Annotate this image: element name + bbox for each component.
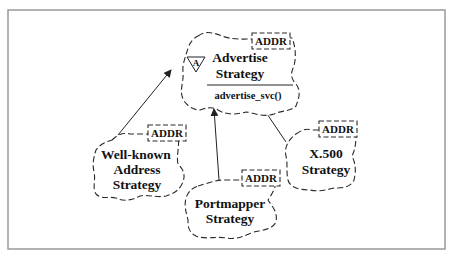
diagram-canvas: ADDR A Advertise Strategy advertise_svc(…: [0, 0, 452, 258]
svg-text:A: A: [193, 58, 200, 68]
class-advertise-strategy: ADDR A Advertise Strategy advertise_svc(…: [181, 33, 299, 116]
template-param-label: ADDR: [151, 127, 184, 139]
inheritance-arrow-portmapper: [214, 109, 219, 180]
svg-text:Well-known: Well-known: [101, 147, 171, 162]
template-param-label: ADDR: [245, 172, 278, 184]
svg-text:X.500: X.500: [309, 146, 343, 161]
class-portmapper-strategy: ADDR Portmapper Strategy: [185, 170, 280, 239]
svg-text:Strategy: Strategy: [206, 211, 255, 226]
class-name-line1: Advertise: [212, 50, 267, 65]
template-param-label: ADDR: [255, 35, 288, 47]
svg-text:Strategy: Strategy: [302, 162, 351, 177]
class-well-known-address-strategy: ADDR Well-known Address Strategy: [93, 125, 186, 200]
svg-text:Portmapper: Portmapper: [195, 196, 265, 211]
template-param-label: ADDR: [322, 123, 355, 135]
class-x500-strategy: ADDR X.500 Strategy: [285, 121, 357, 191]
svg-text:Strategy: Strategy: [113, 177, 162, 192]
method-advertise-svc: advertise_svc(): [214, 90, 282, 102]
class-name-line2: Strategy: [216, 66, 265, 81]
svg-text:Address: Address: [113, 162, 160, 177]
